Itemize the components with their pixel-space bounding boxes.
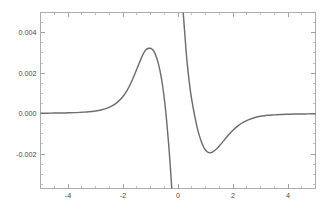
x-axis-minor-ticks <box>54 13 302 189</box>
x-tick-label: -4 <box>65 191 71 200</box>
x-tick-label: -2 <box>120 191 126 200</box>
data-curves <box>41 0 316 210</box>
axes-frame <box>41 13 316 189</box>
plot-canvas: -4-2024 0.0040.0020.000-0.002 <box>0 0 334 210</box>
y-axis-minor-ticks <box>41 23 316 185</box>
plot-frame <box>41 13 316 189</box>
x-tick-label: 2 <box>231 191 235 200</box>
x-axis-major-ticks <box>68 13 288 189</box>
curve-branch-left <box>41 48 178 210</box>
curve-branch-right <box>178 0 315 153</box>
y-tick-label: 0.000 <box>19 109 37 118</box>
x-axis-tick-labels: -4-2024 <box>65 191 290 200</box>
y-tick-label: 0.004 <box>19 28 37 37</box>
y-axis-tick-labels: 0.0040.0020.000-0.002 <box>16 28 36 158</box>
x-tick-label: 4 <box>286 191 290 200</box>
y-axis-major-ticks <box>41 33 316 154</box>
y-tick-label: 0.002 <box>19 69 37 78</box>
y-tick-label: -0.002 <box>16 150 36 159</box>
chart-figure: -4-2024 0.0040.0020.000-0.002 <box>0 0 334 210</box>
x-tick-label: 0 <box>176 191 180 200</box>
